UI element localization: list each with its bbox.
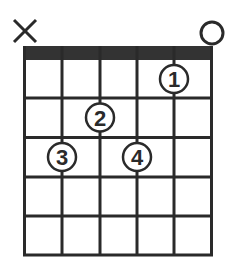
chord-diagram: 1 2 3 4 [0, 0, 234, 271]
finger-label: 3 [56, 145, 68, 170]
finger-label: 4 [131, 145, 144, 170]
muted-string-icon [14, 20, 36, 42]
finger-marker-2: 2 [86, 104, 114, 132]
frets [23, 98, 213, 255]
finger-label: 2 [94, 106, 106, 131]
finger-marker-1: 1 [160, 65, 188, 93]
finger-marker-3: 3 [48, 143, 76, 171]
finger-marker-4: 4 [123, 143, 151, 171]
open-string-icon [201, 22, 223, 44]
finger-label: 1 [168, 67, 180, 92]
nut-bar [23, 46, 213, 60]
